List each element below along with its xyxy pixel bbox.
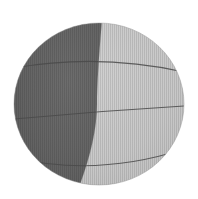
sphere-body <box>0 0 198 199</box>
sphere-canvas <box>0 0 198 199</box>
sphere-graphic <box>0 0 198 199</box>
stripe-texture <box>0 0 198 199</box>
